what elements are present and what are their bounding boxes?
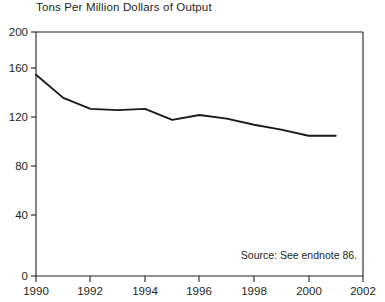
x-axis-label-2000: 2000 (296, 285, 322, 297)
data-series-line (36, 75, 336, 136)
line-chart-plot: 200 160 120 80 40 0 1990 1992 1994 1996 … (0, 0, 385, 302)
y-axis-label-200: 200 (9, 26, 28, 38)
x-axis-label-2002: 2002 (350, 285, 376, 297)
x-tick-marks (36, 276, 363, 282)
x-axis-label-1996: 1996 (186, 285, 212, 297)
x-axis-label-1992: 1992 (77, 285, 103, 297)
x-axis-labels: 1990 1992 1994 1996 1998 2000 2002 (23, 285, 376, 297)
y-axis-label-120: 120 (9, 111, 28, 123)
y-axis-label-160: 160 (9, 62, 28, 74)
x-axis-label-1998: 1998 (241, 285, 267, 297)
y-axis-labels: 200 160 120 80 40 0 (9, 26, 28, 282)
x-axis-label-1994: 1994 (132, 285, 158, 297)
y-tick-marks (31, 32, 36, 276)
y-axis-label-80: 80 (15, 160, 28, 172)
y-axis-label-0: 0 (22, 270, 28, 282)
chart-container: Tons Per Million Dollars of Output 200 1… (0, 0, 385, 302)
y-axis-label-40: 40 (15, 209, 28, 221)
x-axis-label-1990: 1990 (23, 285, 49, 297)
source-note: Source: See endnote 86. (241, 249, 357, 261)
